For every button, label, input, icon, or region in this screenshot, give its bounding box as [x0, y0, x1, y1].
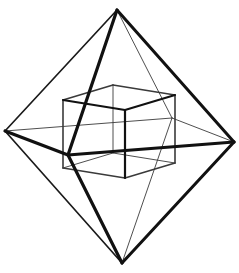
diagram-background: [0, 0, 239, 273]
figure-canvas: [0, 0, 239, 273]
octahedron-cube-diagram: [0, 0, 239, 273]
